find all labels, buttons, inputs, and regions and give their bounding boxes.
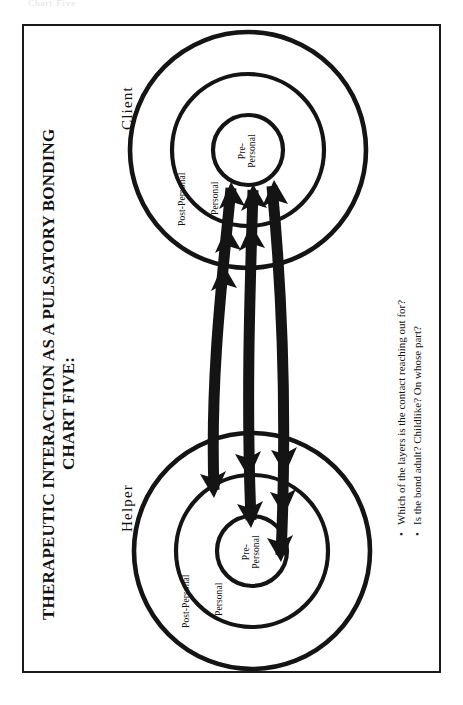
bullet-dot-icon: • bbox=[394, 532, 410, 536]
page-title-line1: CHART FIVE: bbox=[60, 357, 78, 470]
bullet-dot-icon: • bbox=[410, 532, 426, 536]
client-pre-personal-line1: Pre- bbox=[237, 143, 247, 159]
group-label-helper: Helper bbox=[120, 484, 136, 532]
notes-block: • Which of the layers is the contact rea… bbox=[394, 156, 426, 536]
client-pre-personal-line2: Personal bbox=[247, 134, 257, 168]
helper-ring-label-post-personal: Post-Personal bbox=[182, 574, 192, 628]
note-item-1-text: Which of the layers is the contact reach… bbox=[395, 300, 407, 525]
helper-pre-personal-line2: Personal bbox=[251, 535, 261, 569]
helper-pre-personal-line1: Pre- bbox=[241, 544, 251, 560]
client-ring-label-post-personal: Post-Personal bbox=[178, 172, 188, 226]
client-ring-label-pre-personal: Pre- Personal bbox=[238, 125, 257, 177]
page-title-line2: THERAPEUTIC INTERACTION AS A PULSATORY B… bbox=[40, 129, 58, 620]
client-ring-label-personal: Personal bbox=[211, 181, 221, 215]
note-item-2: • Is the bond adult? Childlike? On whose… bbox=[410, 156, 426, 536]
scan-remnant-text: Chart Five bbox=[28, 0, 76, 8]
group-label-client: Client bbox=[120, 86, 136, 130]
note-item-2-text: Is the bond adult? Childlike? On whose p… bbox=[411, 326, 423, 525]
helper-ring-label-personal: Personal bbox=[215, 582, 225, 616]
chart-frame bbox=[22, 24, 441, 673]
page-canvas: Chart Five CHART FIVE: THERAPEUTIC INTER… bbox=[0, 0, 463, 705]
note-item-1: • Which of the layers is the contact rea… bbox=[394, 156, 410, 536]
helper-ring-label-pre-personal: Pre- Personal bbox=[242, 526, 261, 578]
